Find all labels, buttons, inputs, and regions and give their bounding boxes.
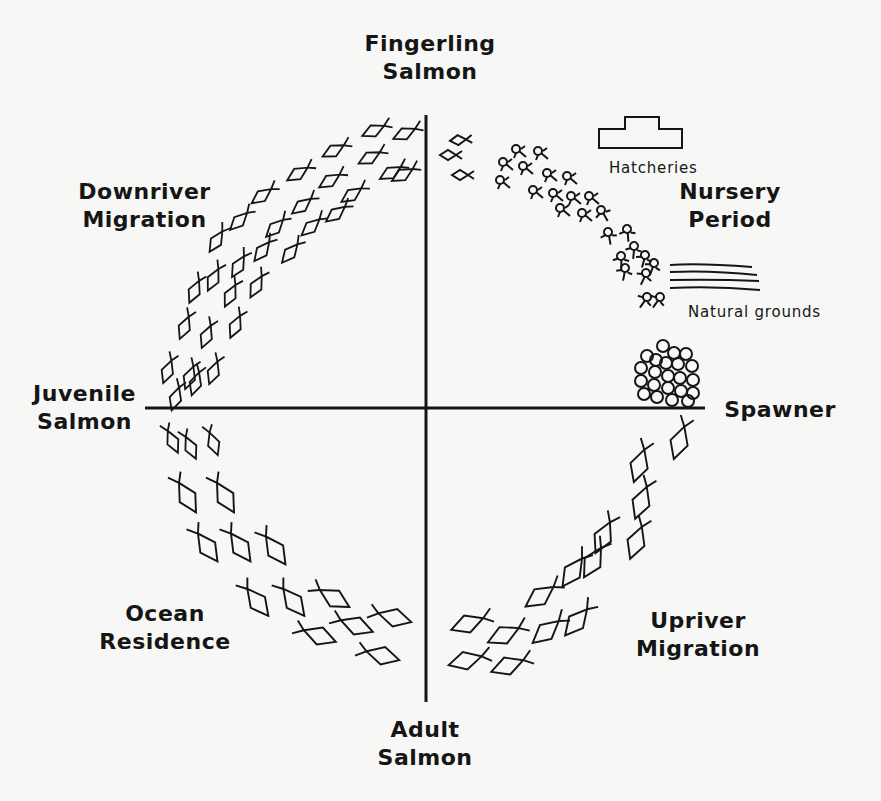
label-line: Period: [670, 206, 790, 234]
label-adult-salmon: Adult Salmon: [355, 716, 495, 772]
label-spawner: Spawner: [715, 396, 845, 424]
label-line: Migration: [62, 206, 227, 234]
label-line: Salmon: [340, 58, 520, 86]
salmon-life-cycle-diagram: Fingerling Salmon Downriver Migration Nu…: [0, 0, 881, 801]
label-line: Fingerling: [340, 30, 520, 58]
eggs-cluster-icon: [635, 340, 699, 407]
label-line: Migration: [618, 635, 778, 663]
fingerling-fish-group: [440, 134, 474, 180]
natural-grounds-water-icon: [670, 264, 760, 290]
label-line: Residence: [80, 628, 250, 656]
hatchery-building-icon: [599, 117, 682, 148]
label-line: Adult: [355, 716, 495, 744]
label-line: Spawner: [715, 396, 845, 424]
label-line: Downriver: [62, 178, 227, 206]
label-line: Juvenile: [22, 380, 147, 408]
label-downriver-migration: Downriver Migration: [62, 178, 227, 234]
label-fingerling-salmon: Fingerling Salmon: [340, 30, 520, 86]
label-juvenile-salmon: Juvenile Salmon: [22, 380, 147, 436]
label-line: Salmon: [22, 408, 147, 436]
label-ocean-residence: Ocean Residence: [80, 600, 250, 656]
label-line: Upriver: [618, 607, 778, 635]
label-line: Ocean: [80, 600, 250, 628]
downriver-fish-group: [158, 117, 425, 412]
label-line: Salmon: [355, 744, 495, 772]
label-line: Nursery: [670, 178, 790, 206]
label-natural-grounds: Natural grounds: [688, 303, 821, 321]
label-nursery-period: Nursery Period: [670, 178, 790, 234]
label-hatcheries: Hatcheries: [609, 159, 698, 177]
label-upriver-migration: Upriver Migration: [618, 607, 778, 663]
